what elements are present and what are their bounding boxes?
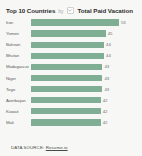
bar-row: Niger43 xyxy=(0,72,140,83)
bar-track: 43 xyxy=(31,84,140,95)
bar-track: 44 xyxy=(31,39,140,50)
bar-track: 42 xyxy=(31,117,140,128)
bar-fill[interactable] xyxy=(31,30,106,36)
bar-row: Togo43 xyxy=(0,84,140,95)
bar-row: Bahrain44 xyxy=(0,39,140,50)
metric-name: Total Paid Vacation xyxy=(78,7,133,14)
bar-track: 42 xyxy=(31,106,140,117)
title-connector-by: by xyxy=(57,8,64,14)
bar-value-label: 53 xyxy=(121,20,126,25)
bar-value-label: 43 xyxy=(104,76,109,81)
bar-row: Iran53 xyxy=(0,17,140,28)
bar-category-label: Iran xyxy=(0,20,31,25)
bar-value-label: 43 xyxy=(104,64,109,69)
bar-category-label: Yemen xyxy=(0,31,31,36)
bar-value-label: 44 xyxy=(106,42,111,47)
bar-row: Mali42 xyxy=(0,117,140,128)
bar-row: Yemen45 xyxy=(0,28,140,39)
bar-value-label: 44 xyxy=(106,53,111,58)
bar-fill[interactable] xyxy=(31,19,119,25)
bar-category-label: Bhutan xyxy=(0,53,31,58)
bar-track: 43 xyxy=(31,72,140,83)
bar-row: Azerbaijan42 xyxy=(0,95,140,106)
bar-track: 53 xyxy=(31,17,140,28)
bar-fill[interactable] xyxy=(31,86,102,92)
bar-value-label: 42 xyxy=(103,120,108,125)
bar-category-label: Madagascar xyxy=(0,64,31,69)
bar-category-label: Mali xyxy=(0,120,31,125)
bar-value-label: 45 xyxy=(108,31,113,36)
bar-fill[interactable] xyxy=(31,53,104,59)
bar-row: Madagascar43 xyxy=(0,61,140,72)
bar-value-label: 43 xyxy=(104,87,109,92)
bar-track: 44 xyxy=(31,50,140,61)
chevron-down-icon[interactable] xyxy=(67,7,74,14)
data-source-link[interactable]: Resume.io xyxy=(46,145,68,150)
page-title: Top 10 Countries xyxy=(6,7,55,14)
chart-card: Top 10 Countries by Total Paid Vacation … xyxy=(0,0,142,156)
bar-fill[interactable] xyxy=(31,97,101,103)
data-source-footer: DATA SOURCE:Resume.io xyxy=(0,142,142,156)
bar-fill[interactable] xyxy=(31,108,101,114)
bar-track: 43 xyxy=(31,61,140,72)
bar-fill[interactable] xyxy=(31,64,102,70)
bar-fill[interactable] xyxy=(31,42,104,48)
bar-fill[interactable] xyxy=(31,75,102,81)
bar-category-label: Kuwait xyxy=(0,109,31,114)
bar-track: 45 xyxy=(31,28,140,39)
bar-value-label: 42 xyxy=(103,109,108,114)
bar-row: Kuwait42 xyxy=(0,106,140,117)
bar-category-label: Togo xyxy=(0,87,31,92)
bar-fill[interactable] xyxy=(31,119,101,125)
bar-category-label: Bahrain xyxy=(0,42,31,47)
chart-title-bar: Top 10 Countries by Total Paid Vacation xyxy=(0,0,142,17)
bar-category-label: Niger xyxy=(0,76,31,81)
data-source-label: DATA SOURCE: xyxy=(11,145,44,150)
bar-track: 42 xyxy=(31,95,140,106)
bar-category-label: Azerbaijan xyxy=(0,98,31,103)
bar-value-label: 42 xyxy=(103,98,108,103)
bar-row: Bhutan44 xyxy=(0,50,140,61)
bar-chart-plot: Iran53Yemen45Bahrain44Bhutan44Madagascar… xyxy=(0,17,142,142)
